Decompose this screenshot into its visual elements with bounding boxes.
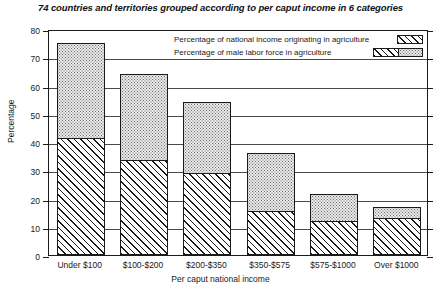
y-axis-tick-label: 60	[31, 83, 40, 93]
x-axis-tick-label: $350-$575	[249, 260, 290, 270]
chart-title: 74 countries and territories grouped acc…	[0, 2, 441, 13]
y-axis-tick	[427, 201, 433, 202]
bar-segment-national-income	[120, 160, 168, 255]
x-axis-tick-label: Under $100	[57, 260, 101, 270]
bar-stack	[120, 74, 168, 255]
y-axis-tick	[427, 31, 433, 32]
y-axis-tick-label: 30	[31, 167, 40, 177]
x-axis-title: Per caput national income	[0, 274, 441, 284]
y-axis-tick	[427, 172, 433, 173]
legend: Percentage of national income originatin…	[174, 33, 423, 59]
y-axis-tick-label: 20	[31, 196, 40, 206]
y-axis-tick-label: 0	[35, 252, 40, 262]
bar-segment-national-income	[183, 173, 231, 255]
legend-item-national-income: Percentage of national income originatin…	[174, 33, 423, 46]
y-axis-tick-label: 40	[31, 139, 40, 149]
legend-item-male-labor-force: Percentage of male labor force in agricu…	[174, 46, 423, 59]
bar-segment-male-labor-force	[373, 207, 421, 218]
bar-stack	[183, 102, 231, 255]
legend-label: Percentage of national income originatin…	[174, 35, 369, 44]
y-axis-tick	[427, 257, 433, 258]
y-axis-tick-label: 80	[31, 26, 40, 36]
legend-label: Percentage of male labor force in agricu…	[174, 48, 331, 57]
bar-segment-national-income	[247, 211, 295, 255]
y-axis-tick	[427, 59, 433, 60]
bar-segment-male-labor-force	[120, 74, 168, 160]
plot-area: 01020304050607080	[48, 30, 428, 256]
y-axis-tick-label: 70	[31, 54, 40, 64]
y-axis-tick	[427, 116, 433, 117]
bar-segment-male-labor-force	[183, 102, 231, 173]
swatch-hatch-half	[374, 49, 398, 56]
bar-segment-national-income	[57, 138, 105, 255]
bar-stack	[57, 43, 105, 255]
bar-segment-male-labor-force	[57, 43, 105, 138]
bar-group	[49, 31, 427, 255]
bar-segment-male-labor-force	[310, 194, 358, 221]
bar-stack	[247, 153, 295, 255]
hatch-dot-swatch-icon	[373, 48, 423, 57]
bar-segment-male-labor-force	[247, 153, 295, 211]
y-axis-tick-label: 10	[31, 224, 40, 234]
hatch-swatch-icon	[397, 35, 423, 44]
y-axis-tick	[427, 88, 433, 89]
chart-container: 74 countries and territories grouped acc…	[0, 0, 441, 295]
y-axis-tick	[427, 229, 433, 230]
bar-segment-national-income	[373, 218, 421, 255]
bar-stack	[310, 194, 358, 255]
y-axis-tick-label: 50	[31, 111, 40, 121]
y-axis-title: Percentage	[6, 100, 16, 143]
y-axis-tick	[43, 257, 49, 258]
x-axis-tick-label: Over $1000	[374, 260, 418, 270]
bar-stack	[373, 207, 421, 255]
x-axis-tick-label: $200-$350	[186, 260, 227, 270]
x-axis-tick-label: $575-$1000	[310, 260, 355, 270]
swatch-dot-half	[398, 49, 422, 56]
bar-segment-national-income	[310, 221, 358, 255]
y-axis-tick	[427, 144, 433, 145]
x-axis-tick-label: $100-$200	[123, 260, 164, 270]
